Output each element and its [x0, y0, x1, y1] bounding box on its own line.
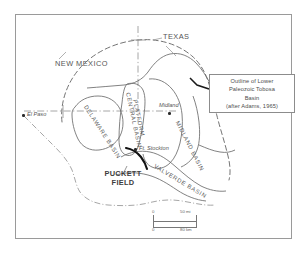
map-figure: NEW MEXICO TEXAS El Paso Midland Ft. Sto…: [0, 0, 307, 254]
legend-box: Outline of Lower Paleozoic Tobosa Basin …: [209, 74, 295, 113]
legend-line-2: Paleozoic Tobosa: [229, 85, 275, 93]
texas-label-leader: [153, 38, 162, 40]
scale-rule-miles: [153, 221, 197, 222]
city-label-ft-stockton: Ft. Stockton: [139, 145, 169, 151]
new-mexico-label-leader: [59, 52, 66, 59]
city-marker-el-paso: [22, 114, 25, 117]
legend-line-4: (after Adams, 1965): [226, 102, 278, 110]
legend-line-1: Outline of Lower: [230, 77, 273, 85]
city-label-el-paso: El Paso: [27, 111, 46, 117]
city-marker-midland: [168, 112, 171, 115]
state-label-new-mexico: NEW MEXICO: [55, 60, 108, 68]
scale-label-km-max: 80 km: [180, 228, 192, 233]
legend-leader-line: [190, 78, 209, 89]
field-label-puckett-line2: FIELD: [95, 179, 151, 187]
city-label-midland: Midland: [159, 102, 179, 108]
scale-label-miles-max: 50 mi: [180, 210, 191, 215]
scale-label-km-zero: 0: [152, 228, 154, 233]
scale-label-miles-zero: 0: [152, 210, 154, 215]
legend-line-3: Basin: [245, 94, 260, 102]
state-label-texas: TEXAS: [163, 33, 189, 41]
field-label-puckett-line1: PUCKETT: [95, 170, 151, 178]
scale-tick-right-km: [196, 221, 197, 227]
southeast-shelf-edge: [199, 145, 235, 152]
